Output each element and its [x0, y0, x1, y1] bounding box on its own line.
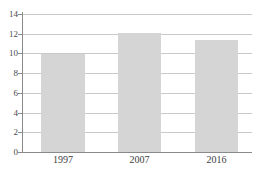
y-tick-label-8: 8: [14, 69, 19, 78]
x-axis-line: [22, 152, 252, 153]
y-tick-label-4: 4: [14, 108, 19, 117]
bar-1997: [41, 54, 85, 152]
y-tick-mark-4: [18, 113, 22, 114]
y-tick-label-2: 2: [14, 128, 19, 137]
x-tick-label-1997: 1997: [53, 155, 73, 165]
x-tick-label-2016: 2016: [207, 155, 227, 165]
y-tick-mark-0: [18, 152, 22, 153]
y-tick-mark-6: [18, 93, 22, 94]
plot-area: [22, 14, 252, 152]
y-tick-label-6: 6: [14, 88, 19, 97]
y-tick-mark-10: [18, 53, 22, 54]
x-tick-label-2007: 2007: [130, 155, 150, 165]
y-axis-line: [22, 12, 23, 153]
y-tick-label-12: 12: [9, 29, 18, 38]
bar-chart: 14 12 10 8 6 4 2 0 1997 2007 2016: [0, 0, 264, 172]
y-tick-mark-14: [18, 14, 22, 15]
y-tick-label-14: 14: [9, 10, 18, 19]
y-tick-mark-12: [18, 34, 22, 35]
gridline-14: [22, 14, 252, 15]
bar-2007: [118, 33, 161, 152]
y-tick-label-0: 0: [14, 148, 19, 157]
bar-2016: [195, 40, 238, 152]
y-tick-mark-8: [18, 73, 22, 74]
y-tick-mark-2: [18, 132, 22, 133]
y-tick-label-10: 10: [9, 49, 18, 58]
